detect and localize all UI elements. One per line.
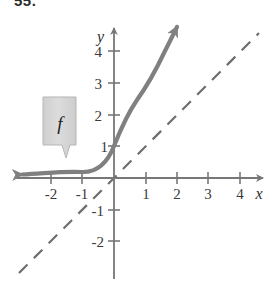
- y-tick-label-2: 2: [95, 108, 103, 124]
- y-tick-label--2: -2: [92, 234, 105, 250]
- y-tick-label-1: 1: [101, 139, 109, 155]
- y-tick-label-3: 3: [95, 76, 103, 92]
- x-tick-label--1: -1: [76, 186, 89, 202]
- x-tick-label-2: 2: [173, 186, 181, 202]
- y-axis-label: y: [95, 28, 105, 46]
- figure-container: 55.: [0, 0, 274, 281]
- x-tick-label-4: 4: [236, 186, 244, 202]
- y-tick-labels: 4 3 2 1 -1 -2: [92, 44, 109, 250]
- y-tick-label--1: -1: [92, 203, 105, 219]
- y-tick-label-4: 4: [95, 44, 103, 60]
- x-axis-label: x: [254, 185, 262, 202]
- coordinate-plot: -2 -1 1 2 3 4 4 3 2 1 -1 -2 y x f: [0, 0, 274, 281]
- x-tick-label-1: 1: [142, 186, 150, 202]
- x-tick-labels: -2 -1 1 2 3 4: [45, 186, 245, 202]
- callout-box-f: f: [43, 97, 76, 158]
- x-tick-label--2: -2: [45, 186, 58, 202]
- dashed-identity-line: [19, 33, 259, 273]
- x-tick-label-3: 3: [204, 186, 212, 202]
